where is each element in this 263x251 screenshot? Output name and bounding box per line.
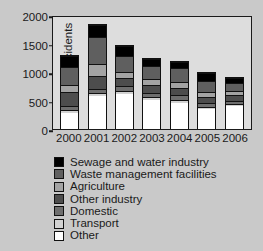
bar-segment bbox=[116, 94, 133, 129]
legend-label: Transport bbox=[70, 218, 119, 229]
legend-label: Domestic bbox=[70, 206, 118, 217]
bar-segment bbox=[89, 76, 106, 89]
bar-segment bbox=[61, 67, 78, 85]
legend-label: Other bbox=[70, 230, 99, 241]
bar-segment bbox=[198, 81, 215, 92]
bar-segment bbox=[171, 103, 188, 129]
legend-swatch bbox=[54, 231, 64, 241]
x-tick-label: 2000 bbox=[55, 132, 82, 144]
legend-item-5: Transport bbox=[54, 217, 217, 229]
legend-swatch bbox=[54, 182, 64, 192]
legend-swatch bbox=[54, 169, 64, 179]
bar-segment bbox=[143, 66, 160, 79]
bar-2006 bbox=[225, 77, 244, 129]
legend-item-1: Waste management facilities bbox=[54, 168, 217, 180]
bar-2002 bbox=[115, 45, 134, 129]
bar-segment bbox=[226, 106, 243, 129]
bar-segment bbox=[198, 109, 215, 129]
bar-segment bbox=[89, 64, 106, 76]
bar-segment bbox=[198, 73, 215, 81]
legend-swatch bbox=[54, 194, 64, 204]
legend-swatch bbox=[54, 219, 64, 229]
legend-item-4: Domestic bbox=[54, 205, 217, 217]
legend-label: Other industry bbox=[70, 194, 142, 205]
bar-segment bbox=[61, 92, 78, 106]
bar-2000 bbox=[60, 55, 79, 129]
bar-2005 bbox=[197, 72, 216, 129]
legend-label: Agriculture bbox=[70, 181, 125, 192]
bar-2003 bbox=[142, 58, 161, 129]
bar-2004 bbox=[170, 61, 189, 129]
bar-segment bbox=[89, 96, 106, 129]
legend-item-6: Other bbox=[54, 230, 217, 242]
plot-area: Number of incidents 0500100015002000 bbox=[52, 16, 252, 130]
bar-2001 bbox=[88, 24, 107, 129]
bar-segment bbox=[89, 25, 106, 37]
legend-swatch bbox=[54, 157, 64, 167]
x-tick-label: 2001 bbox=[83, 132, 110, 144]
bar-segment bbox=[61, 85, 78, 92]
legend-label: Waste management facilities bbox=[70, 169, 217, 180]
chart-legend: Sewage and water industryWaste managemen… bbox=[54, 156, 217, 242]
x-tick-label: 2006 bbox=[222, 132, 249, 144]
bar-segment bbox=[226, 83, 243, 91]
bar-segment bbox=[116, 78, 133, 86]
bar-segment bbox=[116, 56, 133, 72]
bar-segment bbox=[143, 85, 160, 92]
chart-figure: Number of incidents 0500100015002000 200… bbox=[0, 0, 263, 251]
legend-item-0: Sewage and water industry bbox=[54, 156, 217, 168]
legend-item-2: Agriculture bbox=[54, 181, 217, 193]
bar-segment bbox=[171, 68, 188, 82]
legend-item-3: Other industry bbox=[54, 193, 217, 205]
legend-swatch bbox=[54, 206, 64, 216]
bar-segment bbox=[61, 113, 78, 129]
bar-segment bbox=[61, 56, 78, 67]
bar-segment bbox=[171, 88, 188, 95]
bar-group bbox=[53, 17, 251, 129]
x-axis-labels: 2000200120022003200420052006 bbox=[52, 132, 252, 144]
legend-label: Sewage and water industry bbox=[70, 157, 209, 168]
bar-segment bbox=[143, 100, 160, 129]
x-tick-label: 2004 bbox=[166, 132, 193, 144]
x-tick-label: 2005 bbox=[194, 132, 221, 144]
bar-segment bbox=[89, 37, 106, 64]
x-tick-label: 2002 bbox=[111, 132, 138, 144]
bar-segment bbox=[143, 59, 160, 66]
x-tick-label: 2003 bbox=[138, 132, 165, 144]
bar-segment bbox=[116, 46, 133, 56]
